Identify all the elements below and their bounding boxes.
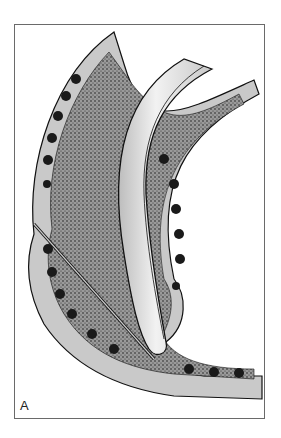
panel-label: A <box>20 398 29 413</box>
anatomical-illustration <box>14 24 265 419</box>
